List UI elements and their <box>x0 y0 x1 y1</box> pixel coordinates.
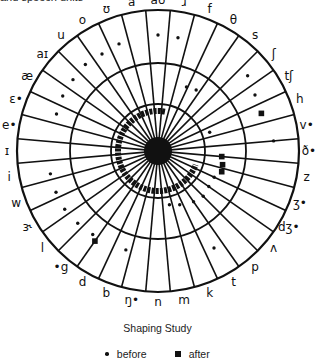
phoneme-label: o <box>79 13 86 27</box>
before-dot <box>76 222 79 225</box>
before-dot <box>124 248 127 251</box>
phoneme-label: ɛ• <box>9 92 23 106</box>
phoneme-label: æ <box>21 69 33 83</box>
before-dot <box>272 139 275 142</box>
before-dot <box>246 74 249 77</box>
before-dot <box>63 208 66 211</box>
before-dot <box>91 233 94 236</box>
before-dot <box>61 94 64 97</box>
legend-item-before: before <box>105 348 146 360</box>
phoneme-label: s <box>252 28 258 42</box>
legend: before after <box>0 348 315 360</box>
before-dot <box>168 203 171 206</box>
before-dot <box>176 36 179 39</box>
center-hub <box>144 137 172 165</box>
before-dot <box>192 200 195 203</box>
phoneme-label: tʃ <box>284 69 294 83</box>
before-dot <box>178 203 181 206</box>
shaping-wheel-diagram: aaʊɹfθsʃtʃhv•ð•zʒ•dʒ•ʌptkmnŋ•bd•glɝwiɪe•… <box>0 0 315 320</box>
phoneme-label: ʊ <box>103 2 110 16</box>
before-dot <box>54 191 57 194</box>
phoneme-label: e• <box>2 118 16 132</box>
phoneme-label: ʃ <box>271 47 277 61</box>
phoneme-label: ʒ• <box>293 196 307 210</box>
phoneme-label: w <box>11 196 21 210</box>
before-dot <box>212 176 215 179</box>
phoneme-label: f <box>208 2 213 16</box>
phoneme-label: ɹ <box>182 0 187 9</box>
phoneme-label: i <box>8 170 11 184</box>
before-dot <box>117 42 120 45</box>
before-dot <box>208 130 211 133</box>
before-dot <box>207 185 210 188</box>
phoneme-label: p <box>251 260 259 274</box>
before-dot <box>212 246 215 249</box>
phoneme-label: u <box>57 28 65 42</box>
before-dot <box>100 52 103 55</box>
phoneme-label: ɪ <box>5 144 9 158</box>
dot-marker-icon <box>105 352 109 356</box>
before-dot <box>156 33 159 36</box>
before-dot <box>185 85 188 88</box>
spoke-line <box>58 154 155 251</box>
before-dot <box>55 112 58 115</box>
spoke-line <box>58 51 155 148</box>
phoneme-label: ŋ• <box>124 293 139 307</box>
phoneme-label: ɝ <box>23 220 33 234</box>
phoneme-label: z <box>304 170 310 184</box>
legend-label: after <box>189 348 210 360</box>
before-dot <box>84 63 87 66</box>
diagram-title: Shaping Study <box>0 322 315 334</box>
before-dot <box>194 88 197 91</box>
legend-item-after: after <box>175 348 210 360</box>
phoneme-label: •g <box>54 260 69 274</box>
before-dot <box>253 93 256 96</box>
after-square <box>259 111 265 117</box>
phoneme-label: m <box>178 293 190 307</box>
spoke-line <box>161 154 258 251</box>
phoneme-label: d <box>79 275 87 289</box>
phoneme-label: h <box>296 92 304 106</box>
before-dot <box>202 195 205 198</box>
phoneme-label: v• <box>300 118 314 132</box>
after-square <box>219 154 225 160</box>
phoneme-label: a <box>128 0 135 9</box>
phoneme-label: t <box>231 275 236 289</box>
phoneme-label: aʊ <box>151 0 166 7</box>
after-square <box>92 238 98 244</box>
phoneme-label: ð• <box>302 144 315 158</box>
phoneme-label: θ <box>230 13 237 27</box>
before-dot <box>49 172 52 175</box>
phoneme-label: ʌ <box>270 241 277 255</box>
square-marker-icon <box>175 351 181 357</box>
phoneme-label: k <box>206 286 213 300</box>
before-dot <box>71 78 74 81</box>
legend-label: before <box>117 348 147 360</box>
after-square <box>220 162 226 168</box>
after-square <box>219 169 225 175</box>
phoneme-label: aɪ <box>36 47 48 61</box>
phoneme-label: n <box>154 295 162 309</box>
phoneme-label: b <box>103 286 111 300</box>
phoneme-label: dʒ• <box>278 220 300 234</box>
phoneme-label: l <box>41 241 44 255</box>
